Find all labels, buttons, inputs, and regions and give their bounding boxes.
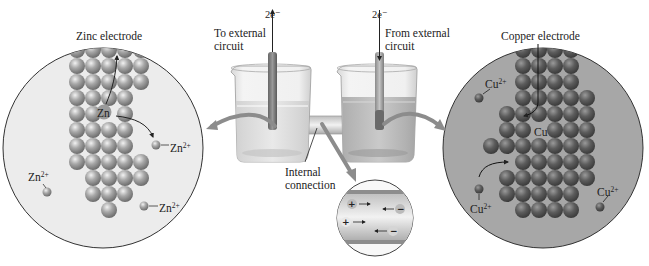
copper-electrode-title: Copper electrode — [501, 30, 580, 42]
zinc-atom-label: Zn — [97, 107, 110, 119]
from-external-circuit-label-1: From external — [385, 27, 450, 39]
positive-ion-symbol: + — [342, 216, 350, 228]
copper-atom-label: Cu — [534, 126, 547, 138]
electron-in-label: 2e⁻ — [372, 9, 387, 21]
copper-ion — [475, 185, 484, 194]
to-external-circuit-label-1: To external — [214, 27, 266, 39]
copper-ion-label: Cu2+ — [485, 76, 506, 90]
to-external-circuit-label-2: circuit — [214, 40, 243, 52]
zinc-ion — [152, 141, 161, 150]
zinc-ion — [140, 202, 149, 211]
zinc-ion-label: Zn2+ — [159, 200, 180, 214]
negative-ion-symbol: − — [390, 225, 398, 237]
copper-electrode-zoom — [443, 42, 643, 248]
galvanic-cell-diagram: Zinc electrode Zn Zn2+ Zn2+ Zn2+ Copper … — [0, 0, 649, 266]
electron-out-label: 2e⁻ — [265, 9, 280, 21]
positive-ion-symbol: + — [348, 198, 356, 210]
internal-connection-label-2: connection — [285, 179, 335, 191]
copper-ion-label: Cu2+ — [470, 201, 491, 215]
copper-ion — [596, 203, 605, 212]
negative-ion-symbol: − — [397, 203, 405, 215]
zinc-ion-label: Zn2+ — [170, 140, 191, 154]
copper-ion-label: Cu2+ — [597, 184, 618, 198]
internal-connection-label-1: Internal — [285, 166, 321, 178]
zinc-ion — [43, 188, 52, 197]
from-external-circuit-label-2: circuit — [385, 40, 414, 52]
zinc-ion-label: Zn2+ — [28, 169, 49, 183]
zinc-electrode-rod — [268, 52, 277, 130]
zinc-electrode-title: Zinc electrode — [76, 30, 142, 42]
copper-ion — [475, 94, 484, 103]
